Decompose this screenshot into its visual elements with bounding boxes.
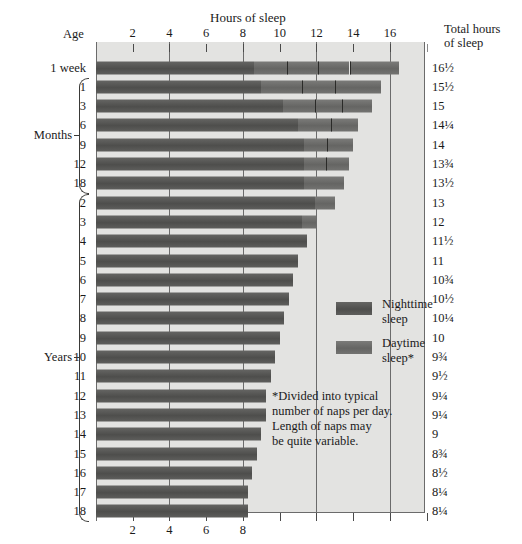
top-tick-mark-6	[206, 44, 207, 52]
sleep-bar	[96, 351, 275, 364]
nap-divider	[342, 100, 343, 113]
sleep-bar	[96, 273, 293, 286]
row-total-hours: 13¾	[432, 157, 454, 172]
bar-segment-daytime-nap	[315, 196, 335, 209]
top-tick-label-10: 10	[273, 26, 286, 41]
bar-segment-nighttime	[96, 254, 298, 267]
top-tick-label-12: 12	[310, 26, 323, 41]
bar-segment-nighttime	[96, 389, 266, 402]
row-total-hours: 14	[432, 137, 445, 152]
row-age-label: 18	[26, 176, 86, 191]
row-age-label: 3	[26, 99, 86, 114]
row-age-label: 7	[26, 292, 86, 307]
top-tick-label-16: 16	[384, 26, 397, 41]
row-total-hours: 15	[432, 99, 445, 114]
bottom-tick-label-2: 2	[130, 523, 136, 538]
months-brace	[79, 78, 89, 195]
row-age-label: 17	[26, 485, 86, 500]
top-tick-mark-10	[280, 44, 281, 52]
bar-segment-daytime-nap	[326, 158, 349, 171]
months-brace-tick	[74, 135, 80, 136]
bottom-tick-mark-10	[280, 513, 281, 521]
bar-segment-nighttime	[96, 351, 275, 364]
bar-segment-nighttime	[96, 447, 257, 460]
years-brace-tick	[74, 357, 80, 358]
top-tick-label-8: 8	[240, 26, 246, 41]
row-age-label: 1	[26, 79, 86, 94]
bar-segment-nighttime	[96, 215, 302, 228]
years-group-label: Years	[18, 350, 72, 365]
legend-nighttime-line2: sleep	[382, 312, 462, 327]
top-tick-label-6: 6	[203, 26, 209, 41]
row-age-label: 1 week	[26, 60, 86, 75]
bar-segment-nighttime	[96, 100, 283, 113]
sleep-bar	[96, 408, 266, 421]
bar-segment-nighttime	[96, 273, 293, 286]
bar-segment-nighttime	[96, 466, 252, 479]
top-tick-label-14: 14	[347, 26, 360, 41]
sleep-bar	[96, 370, 271, 383]
top-tick-mark-2	[133, 44, 134, 52]
legend-daytime-line2: sleep*	[382, 351, 462, 366]
bar-segment-nighttime	[96, 158, 304, 171]
footnote-line4: be quite variable.	[272, 434, 422, 449]
row-total-hours: 12	[432, 214, 445, 229]
top-tick-mark-12	[316, 44, 317, 52]
bar-segment-nighttime	[96, 235, 307, 248]
row-age-label: 11	[26, 369, 86, 384]
total-hours-header-line1: Total hours	[444, 22, 500, 36]
row-age-label: 6	[26, 272, 86, 287]
nap-divider	[326, 158, 327, 171]
top-tick-label-2: 2	[130, 26, 136, 41]
row-total-hours: 13½	[432, 176, 454, 191]
row-total-hours: 13	[432, 195, 445, 210]
bottom-tick-label-4: 4	[166, 523, 172, 538]
row-age-label: 5	[26, 253, 86, 268]
row-total-hours: 8½	[432, 465, 448, 480]
top-tick-mark-4	[169, 44, 170, 52]
footnote-line2: number of naps per day.	[272, 404, 422, 419]
row-age-label: 12	[26, 388, 86, 403]
bar-segment-daytime-nap	[302, 80, 335, 93]
sleep-bar	[96, 254, 298, 267]
row-total-hours: 16½	[432, 60, 454, 75]
bar-segment-daytime-nap	[304, 138, 328, 151]
chart-title: Hours of sleep	[210, 10, 286, 26]
footnote: *Divided into typical number of naps per…	[272, 389, 422, 449]
bar-segment-nighttime	[96, 370, 271, 383]
bar-segment-daytime-nap	[287, 61, 318, 74]
sleep-bar	[96, 100, 372, 113]
row-total-hours: 8¾	[432, 446, 448, 461]
bar-segment-nighttime	[96, 293, 289, 306]
sleep-chart: Hours of sleep Age Total hours of sleep …	[0, 0, 522, 544]
row-total-hours: 9¼	[432, 388, 448, 403]
sleep-bar	[96, 235, 307, 248]
bar-segment-daytime-nap	[331, 119, 358, 132]
sleep-bar	[96, 215, 316, 228]
sleep-bar	[96, 428, 261, 441]
top-tick-mark-18	[427, 44, 428, 52]
row-age-label: 4	[26, 234, 86, 249]
bar-segment-nighttime	[96, 177, 304, 190]
nap-divider	[315, 100, 316, 113]
row-total-hours: 8¼	[432, 504, 448, 519]
nap-divider	[318, 61, 319, 74]
top-tick-label-4: 4	[166, 26, 172, 41]
months-group-label: Months	[18, 128, 72, 143]
row-total-hours: 9	[432, 427, 438, 442]
bar-segment-nighttime	[96, 119, 298, 132]
total-hours-header: Total hours of sleep	[444, 22, 500, 50]
row-age-label: 18	[26, 504, 86, 519]
top-tick-mark-16	[390, 44, 391, 52]
bar-segment-daytime-nap	[318, 61, 349, 74]
footnote-line1: *Divided into typical	[272, 389, 422, 404]
bar-segment-nighttime	[96, 331, 280, 344]
sleep-bar	[96, 505, 248, 518]
row-age-label: 2	[26, 195, 86, 210]
row-age-label: 3	[26, 214, 86, 229]
bar-segment-daytime-nap	[304, 158, 326, 171]
row-age-label: 13	[26, 407, 86, 422]
sleep-bar	[96, 293, 289, 306]
legend-swatch-nighttime	[336, 302, 372, 315]
legend-label-daytime: Daytime sleep*	[382, 336, 462, 365]
